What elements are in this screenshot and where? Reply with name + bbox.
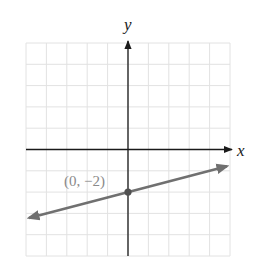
intercept-point: [124, 189, 131, 196]
graph: x y (0, −2): [0, 0, 253, 274]
x-axis-label: x: [236, 141, 245, 160]
point-label: (0, −2): [64, 173, 105, 190]
y-axis-label: y: [122, 15, 132, 34]
axes: [26, 41, 232, 256]
annotations: [124, 189, 131, 196]
